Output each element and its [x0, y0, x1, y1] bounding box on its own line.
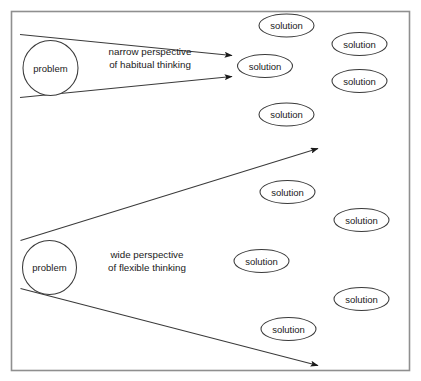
solution-label: solution — [343, 39, 376, 50]
solution-label: solution — [271, 187, 304, 198]
solution-label: solution — [272, 324, 305, 335]
problem-node-problem-top[interactable]: problem — [23, 41, 78, 96]
solution-node-solution-narrow-target[interactable]: solution — [238, 55, 293, 78]
caption-line-1: narrow perspective — [109, 46, 192, 57]
solution-label: solution — [345, 215, 378, 226]
caption-line-2: of flexible thinking — [108, 262, 186, 273]
solution-label: solution — [345, 294, 378, 305]
solution-label: solution — [270, 109, 303, 120]
solution-label: solution — [245, 256, 278, 267]
caption-line-1: wide perspective — [110, 249, 185, 260]
solution-label: solution — [270, 20, 303, 31]
solution-node-solution-bottom-center[interactable]: solution — [261, 318, 316, 341]
solution-node-solution-center-mid[interactable]: solution — [260, 181, 315, 204]
solution-node-solution-right-second[interactable]: solution — [332, 70, 387, 93]
solution-node-solution-right-fourth[interactable]: solution — [334, 288, 389, 311]
problem-label: problem — [33, 63, 67, 74]
solution-label: solution — [343, 76, 376, 87]
diagram-canvas: problem problem narrow perspective of ha… — [0, 0, 421, 381]
solution-node-solution-top-center[interactable]: solution — [259, 14, 314, 37]
solution-node-solution-center-upper[interactable]: solution — [259, 103, 314, 126]
solution-node-solution-center-lower[interactable]: solution — [234, 250, 289, 273]
solution-node-solution-right-third[interactable]: solution — [334, 209, 389, 232]
solution-node-solution-top-right[interactable]: solution — [332, 33, 387, 56]
problem-node-problem-bottom[interactable]: problem — [23, 241, 77, 295]
problem-label: problem — [32, 262, 66, 273]
caption-line-2: of habitual thinking — [109, 59, 191, 70]
solution-label: solution — [249, 61, 282, 72]
diagram-root: problem problem narrow perspective of ha… — [0, 0, 421, 381]
